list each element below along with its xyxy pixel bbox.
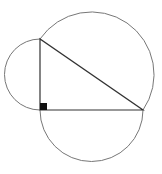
right-triangle — [40, 39, 143, 110]
right-triangle-semicircles-diagram — [0, 0, 162, 174]
vertical-leg-semicircle — [4, 39, 40, 110]
hypotenuse-semicircle — [40, 12, 154, 110]
horizontal-leg-semicircle — [40, 110, 143, 162]
right-angle-marker — [40, 103, 47, 110]
